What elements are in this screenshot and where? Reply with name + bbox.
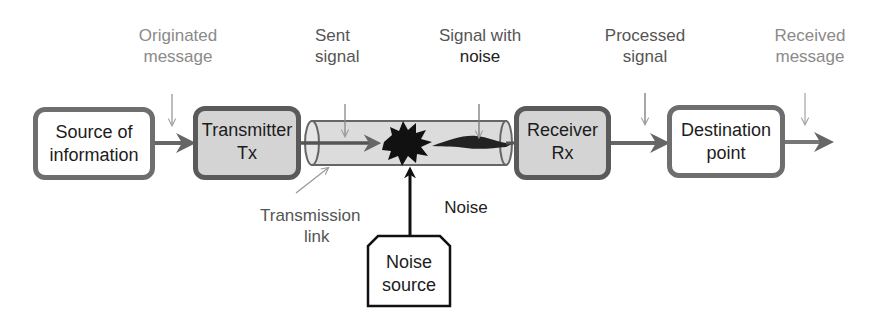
block-source-of-information: Source of information [33, 107, 155, 180]
label-transmission-link: Transmission link [260, 205, 370, 247]
label-sent-signal: Sent signal [315, 25, 375, 67]
label-originated-message: Originated message [128, 25, 228, 67]
block-transmitter: Transmitter Tx [193, 106, 301, 180]
label-processed-signal: Processed signal [590, 25, 700, 67]
block-destination-point: Destination point [667, 105, 785, 178]
pointer-transmission-link [296, 168, 328, 193]
block-receiver: Receiver Rx [514, 106, 611, 180]
label-noise: Noise [436, 197, 496, 218]
label-signal-with-noise: Signal with noise [420, 25, 540, 67]
label-received-message: Received message [760, 25, 860, 67]
block-noise-source: Noise source [368, 235, 450, 308]
